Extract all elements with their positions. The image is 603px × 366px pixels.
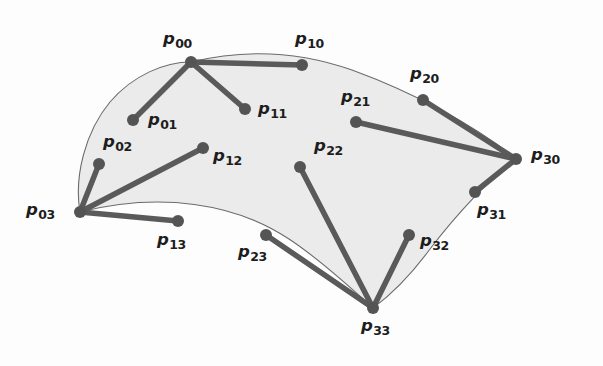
- label-base-p20: p: [410, 64, 422, 83]
- label-base-p02: p: [103, 132, 115, 151]
- label-sub-p30: 30: [543, 152, 560, 167]
- label-base-p00: p: [163, 29, 175, 48]
- label-sub-p32: 32: [432, 238, 449, 253]
- label-base-p30: p: [531, 145, 543, 164]
- control-point-p20[interactable]: [417, 94, 429, 106]
- label-base-p31: p: [477, 200, 489, 219]
- control-point-p10[interactable]: [296, 59, 308, 71]
- label-p12: p12: [213, 148, 242, 168]
- control-point-p33[interactable]: [367, 302, 379, 314]
- label-base-p11: p: [258, 99, 270, 118]
- label-base-p12: p: [213, 146, 225, 165]
- label-p02: p02: [103, 134, 132, 154]
- label-p00: p00: [163, 31, 192, 51]
- label-sub-p23: 23: [250, 249, 267, 264]
- control-point-p32[interactable]: [403, 229, 415, 241]
- label-p22: p22: [314, 138, 343, 158]
- label-base-p32: p: [420, 231, 432, 250]
- label-p01: p01: [148, 112, 177, 132]
- control-point-p23[interactable]: [260, 229, 272, 241]
- label-sub-p31: 31: [489, 207, 506, 222]
- control-point-p03[interactable]: [74, 206, 86, 218]
- control-point-p01[interactable]: [127, 114, 139, 126]
- label-base-p01: p: [148, 110, 160, 129]
- control-point-p02[interactable]: [93, 158, 105, 170]
- control-point-p13[interactable]: [172, 215, 184, 227]
- control-point-p12[interactable]: [197, 142, 209, 154]
- leg-p03-p13: [80, 212, 178, 221]
- label-base-p10: p: [295, 29, 307, 48]
- label-base-p23: p: [238, 242, 250, 261]
- label-base-p13: p: [157, 230, 169, 249]
- label-sub-p33: 33: [373, 323, 390, 338]
- label-sub-p11: 11: [270, 106, 287, 121]
- label-p21: p21: [341, 89, 370, 109]
- control-point-p21[interactable]: [350, 116, 362, 128]
- control-point-p00[interactable]: [185, 56, 197, 68]
- label-base-p22: p: [314, 136, 326, 155]
- control-point-p22[interactable]: [294, 161, 306, 173]
- label-p10: p10: [295, 31, 324, 51]
- label-sub-p03: 03: [38, 207, 55, 222]
- label-p33: p33: [361, 318, 390, 338]
- label-base-p03: p: [26, 200, 38, 219]
- control-point-p31[interactable]: [469, 186, 481, 198]
- label-p30: p30: [531, 147, 560, 167]
- label-p31: p31: [477, 202, 506, 222]
- label-p11: p11: [258, 101, 287, 121]
- label-p32: p32: [420, 233, 449, 253]
- label-p23: p23: [238, 244, 267, 264]
- patch-drawing-canvas: [0, 0, 603, 366]
- leg-p00-p10: [191, 62, 302, 65]
- label-sub-p01: 01: [160, 117, 177, 132]
- label-p13: p13: [157, 232, 186, 252]
- control-point-p11[interactable]: [239, 103, 251, 115]
- control-point-p30[interactable]: [510, 153, 522, 165]
- label-base-p21: p: [341, 87, 353, 106]
- label-sub-p20: 20: [422, 71, 439, 86]
- label-sub-p13: 13: [169, 237, 186, 252]
- label-sub-p02: 02: [115, 139, 132, 154]
- label-p03: p03: [26, 202, 55, 222]
- label-base-p33: p: [361, 316, 373, 335]
- bezier-patch-figure: p00p10p20p30p01p11p21p31p02p12p22p32p03p…: [0, 0, 603, 366]
- label-p20: p20: [410, 66, 439, 86]
- label-sub-p12: 12: [225, 153, 242, 168]
- label-sub-p22: 22: [326, 143, 343, 158]
- label-sub-p00: 00: [175, 36, 192, 51]
- label-sub-p10: 10: [307, 36, 324, 51]
- label-sub-p21: 21: [353, 94, 370, 109]
